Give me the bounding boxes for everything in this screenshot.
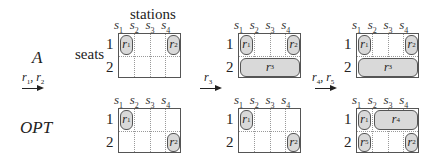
- station-header-s1: s1: [234, 92, 243, 110]
- request-r1: r1: [358, 110, 371, 130]
- grid-divider: [119, 131, 180, 132]
- request-r1: r1: [240, 35, 253, 55]
- station-header-s4: s4: [281, 17, 290, 35]
- request-r2: r2: [167, 35, 180, 55]
- station-header-s2: s2: [130, 17, 139, 35]
- station-header-s2: s2: [130, 92, 139, 110]
- station-header-s1: s1: [352, 92, 361, 110]
- seat-number-2: 2: [106, 134, 114, 151]
- request-r3: r3: [240, 58, 300, 78]
- grid-divider: [357, 56, 418, 57]
- grid-a-1: r1r2: [118, 33, 181, 78]
- station-header-s3: s3: [384, 92, 393, 110]
- station-header-s2: s2: [250, 92, 259, 110]
- station-header-s3: s3: [266, 17, 275, 35]
- station-header-s4: s4: [399, 92, 408, 110]
- station-header-s3: s3: [384, 17, 393, 35]
- station-header-s3: s3: [146, 17, 155, 35]
- request-r2: r2: [167, 133, 180, 153]
- station-header-s4: s4: [161, 92, 170, 110]
- request-r3: r3: [358, 58, 418, 78]
- seat-number-1: 1: [226, 111, 234, 128]
- station-header-s2: s2: [368, 17, 377, 35]
- grid-divider: [357, 131, 418, 132]
- seat-number-2: 2: [344, 134, 352, 151]
- seats-label: seats: [75, 46, 104, 63]
- request-r2: r2: [287, 133, 300, 153]
- grid-a-2: r1r2r3: [238, 33, 301, 78]
- grid-divider: [239, 131, 300, 132]
- grid-a-3: r1r2r3: [356, 33, 419, 78]
- right-arrow-icon: [22, 88, 42, 89]
- seat-number-2: 2: [344, 59, 352, 76]
- seat-number-1: 1: [344, 111, 352, 128]
- request-r4: r4: [374, 110, 418, 130]
- station-header-s2: s2: [250, 17, 259, 35]
- grid-divider: [239, 56, 300, 57]
- station-header-s4: s4: [281, 92, 290, 110]
- grid-opt-1: r1r2: [118, 108, 181, 153]
- request-r1: r1: [120, 35, 133, 55]
- station-header-s3: s3: [266, 92, 275, 110]
- seat-number-1: 1: [106, 36, 114, 53]
- grid-opt-3: r1r4r5r2: [356, 108, 419, 153]
- row-label-opt: OPT: [20, 118, 52, 138]
- grid-divider: [119, 56, 180, 57]
- request-r2: r2: [287, 35, 300, 55]
- station-header-s4: s4: [161, 17, 170, 35]
- transition-label-2: r3: [204, 70, 212, 86]
- right-arrow-icon: [200, 88, 220, 89]
- station-header-s2: s2: [368, 92, 377, 110]
- grid-opt-2: r1r2: [238, 108, 301, 153]
- request-r1: r1: [240, 110, 253, 130]
- request-r2: r2: [405, 35, 418, 55]
- request-r5: r5: [358, 133, 371, 153]
- station-header-s3: s3: [146, 92, 155, 110]
- seat-number-1: 1: [226, 36, 234, 53]
- seat-number-2: 2: [106, 59, 114, 76]
- seat-number-1: 1: [344, 36, 352, 53]
- seat-number-2: 2: [226, 134, 234, 151]
- station-header-s1: s1: [234, 17, 243, 35]
- request-r2: r2: [405, 133, 418, 153]
- row-label-a: A: [32, 48, 42, 68]
- seat-number-1: 1: [106, 111, 114, 128]
- request-r1: r1: [120, 110, 133, 130]
- request-r1: r1: [358, 35, 371, 55]
- station-header-s1: s1: [114, 92, 123, 110]
- station-header-s1: s1: [114, 17, 123, 35]
- right-arrow-icon: [315, 88, 335, 89]
- station-header-s1: s1: [352, 17, 361, 35]
- seat-number-2: 2: [226, 59, 234, 76]
- station-header-s4: s4: [399, 17, 408, 35]
